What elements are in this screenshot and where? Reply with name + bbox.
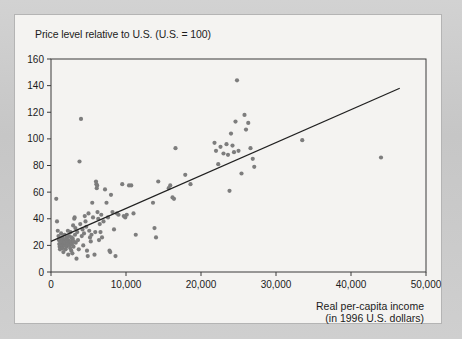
data-point	[379, 155, 383, 159]
data-points-layer	[54, 78, 383, 261]
chart-panel: Price level relative to U.S. (U.S. = 100…	[14, 14, 442, 324]
x-tick-label: 0	[48, 279, 54, 290]
figure-root: Price level relative to U.S. (U.S. = 100…	[0, 0, 462, 339]
data-point	[242, 113, 246, 117]
data-point	[93, 230, 97, 234]
x-tick-label: 50,000	[411, 279, 442, 290]
scatter-plot: 020406080100120140160 010,00020,00030,00…	[15, 15, 443, 325]
data-point	[232, 150, 236, 154]
data-point	[173, 146, 177, 150]
data-point	[229, 131, 233, 135]
data-point	[82, 231, 86, 235]
y-tick-label: 100	[27, 133, 44, 144]
y-tick-label: 40	[33, 213, 45, 224]
data-point	[214, 149, 218, 153]
data-point	[244, 127, 248, 131]
data-point	[70, 251, 74, 255]
data-point	[54, 197, 58, 201]
data-point	[152, 226, 156, 230]
x-tick-label: 30,000	[261, 279, 292, 290]
data-point	[216, 162, 220, 166]
data-point	[251, 157, 255, 161]
x-axis-ticks: 010,00020,00030,00040,00050,000	[48, 272, 442, 290]
data-point	[55, 219, 59, 223]
data-point	[74, 257, 78, 261]
data-point	[108, 250, 112, 254]
data-point	[92, 253, 96, 257]
data-point	[109, 193, 113, 197]
data-point	[77, 159, 81, 163]
data-point	[95, 183, 99, 187]
trendline	[51, 88, 400, 241]
y-tick-label: 80	[33, 160, 45, 171]
data-point	[99, 213, 103, 217]
data-point	[221, 151, 225, 155]
data-point	[79, 117, 83, 121]
x-tick-label: 10,000	[111, 279, 142, 290]
data-point	[98, 230, 102, 234]
data-point	[129, 183, 133, 187]
data-point	[236, 149, 240, 153]
data-point	[112, 227, 116, 231]
trendline-layer	[51, 88, 400, 241]
axis-layer	[51, 59, 426, 272]
data-point	[233, 119, 237, 123]
x-tick-label: 20,000	[186, 279, 217, 290]
y-tick-label: 60	[33, 187, 45, 198]
data-point	[101, 219, 105, 223]
data-point	[172, 197, 176, 201]
y-tick-label: 120	[27, 107, 44, 118]
data-point	[76, 238, 80, 242]
data-point	[224, 142, 228, 146]
y-tick-label: 20	[33, 240, 45, 251]
data-point	[95, 210, 99, 214]
x-axis-caption: Real per-capita income(in 1996 U.S. doll…	[316, 300, 424, 324]
data-point	[131, 211, 135, 215]
data-point	[81, 243, 85, 247]
data-point	[89, 239, 93, 243]
data-point	[154, 235, 158, 239]
data-point	[71, 245, 75, 249]
data-point	[168, 183, 172, 187]
data-point	[83, 219, 87, 223]
data-point	[56, 229, 60, 233]
data-point	[134, 233, 138, 237]
data-point	[98, 222, 102, 226]
data-point	[218, 145, 222, 149]
data-point	[78, 222, 82, 226]
plot-frame	[51, 59, 426, 272]
data-point	[125, 213, 129, 217]
data-point	[300, 138, 304, 142]
data-point	[235, 78, 239, 82]
x-axis-label-line2: (in 1996 U.S. dollars)	[325, 312, 424, 324]
data-point	[66, 253, 70, 257]
data-point	[246, 121, 250, 125]
data-point	[77, 247, 81, 251]
data-point	[73, 215, 77, 219]
data-point	[212, 141, 216, 145]
data-point	[239, 171, 243, 175]
data-point	[227, 189, 231, 193]
data-point	[252, 165, 256, 169]
y-tick-label: 0	[38, 267, 44, 278]
data-point	[226, 153, 230, 157]
x-axis-label-line1: Real per-capita income	[316, 300, 424, 312]
data-point	[188, 182, 192, 186]
data-point	[113, 254, 117, 258]
data-point	[86, 254, 90, 258]
data-point	[89, 233, 93, 237]
data-point	[103, 187, 107, 191]
y-axis-ticks: 020406080100120140160	[27, 54, 51, 278]
data-point	[248, 146, 252, 150]
data-point	[91, 215, 95, 219]
data-point	[104, 201, 108, 205]
data-point	[90, 201, 94, 205]
data-point	[156, 179, 160, 183]
data-point	[85, 249, 89, 253]
y-tick-label: 140	[27, 80, 44, 91]
data-point	[100, 235, 104, 239]
data-point	[183, 173, 187, 177]
data-point	[230, 143, 234, 147]
x-tick-label: 40,000	[336, 279, 367, 290]
data-point	[151, 201, 155, 205]
